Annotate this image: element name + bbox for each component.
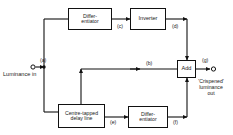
block-delay-line[interactable]: Centre-tapped delay line [58,104,105,128]
block-inverter[interactable]: Inverter [130,8,166,30]
block-differentiator-top[interactable]: Differ- entiator [68,8,112,30]
output-terminal-label: 'Crispened' luminance out [190,79,232,96]
junction-dot-input [42,65,45,68]
block-differentiator-bottom[interactable]: Differ- entiator [128,106,168,128]
block-label-line2: entiator [139,117,156,122]
node-label-f: (f) [173,120,178,125]
block-adder[interactable]: Add [177,60,196,78]
diagram-canvas: Differ- entiator Inverter Add Centre-tap… [0,0,233,135]
input-terminal-label: Luminance in [3,71,36,77]
node-label-d: (d) [172,24,178,29]
block-label-line2: entiator [81,19,98,24]
block-label-line2: delay line [71,116,93,121]
node-label-c: (c) [117,24,123,29]
node-label-e: (e) [110,120,116,125]
wiring-layer [0,0,233,135]
block-label-line1: Add [182,66,192,72]
node-label-g: (g) [202,58,208,63]
terminal-circle-output [211,67,215,71]
node-label-a: (a) [40,58,46,63]
terminal-circle-input [31,65,35,69]
block-label-line1: Inverter [139,16,158,22]
node-label-b: (b) [146,61,152,66]
output-terminal-label-line3: out [190,91,232,97]
